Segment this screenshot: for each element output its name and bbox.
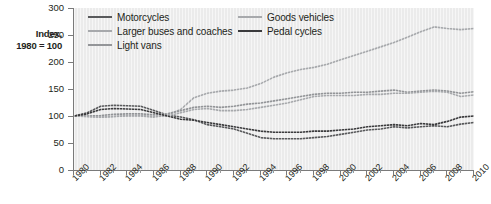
y-axis-tick — [68, 89, 73, 90]
y-axis-tick-label: 250 — [22, 29, 64, 40]
legend: MotorcyclesLarger buses and coachesLight… — [88, 10, 418, 52]
legend-item[interactable]: Motorcycles — [88, 10, 238, 24]
series-line-motorcycles — [74, 105, 474, 138]
legend-swatch-icon — [238, 30, 262, 32]
legend-item-label: Goods vehicles — [267, 12, 334, 23]
y-axis-tick — [68, 35, 73, 36]
y-axis-tick-label: 300 — [22, 2, 64, 13]
y-axis-tick — [68, 62, 73, 63]
legend-item[interactable]: Goods vehicles — [238, 10, 418, 24]
legend-item[interactable]: Larger buses and coaches — [88, 24, 238, 38]
y-axis-tick-label: 200 — [22, 56, 64, 67]
y-axis-tick — [68, 143, 73, 144]
legend-item-label: Motorcycles — [117, 12, 169, 23]
legend-swatch-icon — [88, 16, 112, 18]
y-axis-tick — [68, 8, 73, 9]
legend-item-label: Larger buses and coaches — [117, 26, 232, 37]
y-axis-tick-label: 100 — [22, 110, 64, 121]
legend-item[interactable]: Light vans — [88, 38, 238, 52]
y-axis-title-line-2: 1980 = 100 — [0, 40, 62, 52]
legend-item-label: Pedal cycles — [267, 26, 322, 37]
series-line-light-vans — [74, 90, 474, 116]
legend-swatch-icon — [88, 44, 112, 46]
legend-item-label: Light vans — [117, 40, 162, 51]
legend-item[interactable]: Pedal cycles — [238, 24, 418, 38]
series-line-pedal-cycles — [74, 108, 474, 132]
y-axis-tick — [68, 116, 73, 117]
y-axis-tick-label: 0 — [22, 164, 64, 175]
legend-swatch-icon — [88, 30, 112, 32]
legend-swatch-icon — [238, 16, 262, 18]
y-axis-tick-label: 150 — [22, 83, 64, 94]
y-axis-tick-label: 50 — [22, 137, 64, 148]
